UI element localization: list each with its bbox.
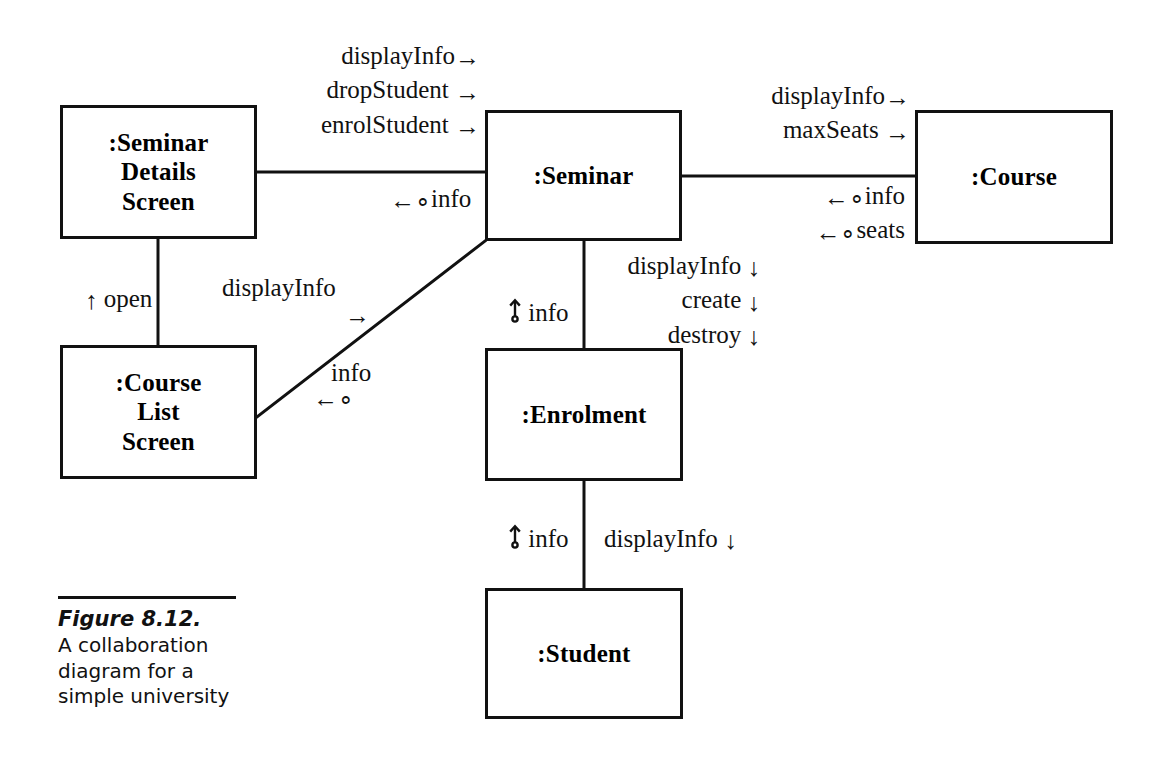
message-group-seminar-to-course: displayInfo→ maxSeats → [620, 80, 910, 149]
arrow-up-return-glyph [508, 523, 522, 549]
arrow-down-icon: ↓ [748, 252, 761, 284]
message-label: displayInfo [341, 42, 455, 69]
message-label: info [528, 525, 568, 552]
object-course-list-screen[interactable]: :Course List Screen [60, 345, 257, 479]
message-return-info-diagonal: info ←∘ [313, 357, 371, 415]
arrow-up-return-icon [508, 523, 522, 557]
message-group-screen-to-seminar: displayInfo→ dropStudent → enrolStudent … [180, 40, 480, 143]
message-return-seats: ←∘seats [700, 214, 905, 248]
message-return-info-to-seminar: info [508, 297, 569, 332]
object-student[interactable]: :Student [485, 588, 683, 719]
message-enrolstudent: enrolStudent → [180, 109, 480, 143]
arrow-up-return-glyph [508, 297, 522, 323]
message-label: enrolStudent [321, 111, 449, 138]
message-label: displayInfo [604, 525, 718, 552]
figure-number: Figure 8.12. [58, 606, 243, 632]
arrow-down-icon: ↓ [748, 321, 761, 353]
message-label: info [865, 182, 905, 209]
message-displayinfo-to-student: displayInfo ↓ [604, 523, 737, 557]
message-maxseats: maxSeats → [620, 114, 910, 148]
message-open: ↑ open [85, 283, 152, 317]
message-displayinfo-diagonal: displayInfo → [222, 272, 370, 332]
message-displayinfo: displayInfo→ [180, 40, 480, 74]
message-label: open [104, 285, 153, 312]
object-label: :Seminar [533, 161, 633, 191]
object-label: :Student [537, 639, 630, 669]
figure-caption-text: A collaboration diagram for a simple uni… [58, 633, 243, 710]
message-return-info-to-enrolment: info [508, 523, 569, 558]
figure-caption: Figure 8.12. A collaboration diagram for… [58, 596, 243, 710]
arrow-right-icon: → [455, 42, 480, 74]
arrow-left-icon: ← [824, 182, 849, 214]
arrow-down-icon: ↓ [724, 525, 737, 557]
object-enrolment[interactable]: :Enrolment [485, 348, 683, 481]
message-label: destroy [668, 321, 742, 348]
message-displayinfo: displayInfo ↓ [530, 250, 760, 284]
message-label: create [682, 286, 742, 313]
caption-divider [58, 596, 236, 599]
return-marker-icon: ∘ [338, 383, 354, 415]
arrow-right-icon: → [345, 300, 370, 332]
message-label: info [528, 299, 568, 326]
message-return-info-to-details-screen: ←∘info [390, 183, 471, 217]
message-label: displayInfo [627, 252, 741, 279]
message-label: displayInfo [222, 274, 336, 301]
object-label: :Enrolment [521, 400, 646, 430]
message-label: seats [856, 216, 905, 243]
message-group-course-returns: ←∘info ←∘seats [700, 180, 905, 249]
message-label: displayInfo [771, 82, 885, 109]
return-marker-icon: ∘ [415, 185, 431, 217]
arrow-down-icon: ↓ [748, 287, 761, 319]
message-displayinfo: displayInfo→ [620, 80, 910, 114]
arrow-right-icon: → [885, 117, 910, 149]
message-dropstudent: dropStudent → [180, 74, 480, 108]
return-marker-icon: ∘ [849, 182, 865, 214]
arrow-left-icon: ← [313, 383, 338, 415]
arrow-up-icon: ↑ [85, 285, 98, 317]
message-return-info: ←∘info [700, 180, 905, 214]
arrow-right-icon: → [455, 77, 480, 109]
message-label: maxSeats [783, 116, 879, 143]
object-label: :Course [971, 162, 1057, 192]
arrow-up-return-icon [508, 297, 522, 331]
return-marker-icon: ∘ [840, 217, 856, 249]
object-label: :Course List Screen [115, 368, 201, 457]
object-course[interactable]: :Course [915, 110, 1113, 244]
arrow-right-icon: → [885, 82, 910, 114]
arrow-left-icon: ← [815, 217, 840, 249]
message-label: dropStudent [327, 76, 449, 103]
arrow-left-icon: ← [390, 185, 415, 217]
arrow-right-icon: → [455, 111, 480, 143]
message-label: info [431, 185, 471, 212]
